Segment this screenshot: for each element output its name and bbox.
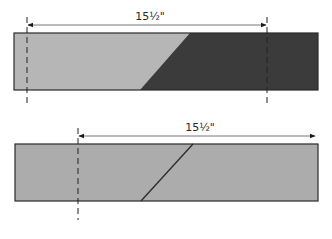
top-strip-diagram: 15½" — [14, 10, 318, 106]
diagram-canvas: 15½" 15½" — [0, 0, 332, 239]
top-dimension-label: 15½" — [135, 10, 165, 23]
bottom-dimension-label: 15½" — [185, 121, 215, 134]
bottom-strip-diagram: 15½" — [15, 121, 318, 220]
